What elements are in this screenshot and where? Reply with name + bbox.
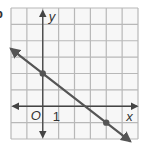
data-point xyxy=(40,70,46,76)
x-tick-label: 1 xyxy=(53,109,60,124)
x-axis-label: x xyxy=(125,109,133,124)
data-point xyxy=(103,119,109,125)
origin-label: O xyxy=(31,108,41,123)
coordinate-plane: yxO1 xyxy=(0,0,145,151)
